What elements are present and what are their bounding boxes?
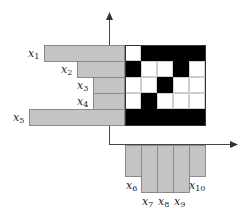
label-subscript: 1	[34, 52, 39, 61]
grid-cell	[189, 93, 205, 109]
grid-cell	[141, 93, 157, 109]
grid-cell	[157, 93, 173, 109]
projection-label: x8	[158, 196, 169, 209]
grid-cell	[173, 109, 189, 125]
row-projection-bar	[44, 45, 125, 62]
projection-label: x9	[174, 196, 185, 209]
label-subscript: 8	[164, 200, 169, 209]
label-subscript: 6	[132, 184, 137, 193]
projection-label: x2	[61, 64, 72, 77]
grid-cell	[141, 61, 157, 77]
label-subscript: 7	[148, 200, 153, 209]
label-subscript: 3	[83, 84, 88, 93]
label-subscript: 4	[83, 100, 88, 109]
column-projection-bar	[125, 145, 142, 177]
grid-cell	[157, 77, 173, 93]
grid-cell	[189, 61, 205, 77]
grid-cell	[173, 45, 189, 61]
grid-cell	[173, 61, 189, 77]
column-projection-bar	[157, 145, 174, 193]
column-projection-bar	[141, 145, 158, 193]
label-subscript: 10	[195, 184, 205, 193]
projection-diagram: x1x2x3x4x5 x6x7x8x9x10	[0, 0, 250, 218]
grid-cell	[125, 61, 141, 77]
grid-cell	[157, 109, 173, 125]
horizontal-axis-arrow-icon	[230, 141, 238, 148]
grid-cell	[173, 77, 189, 93]
row-projection-bar	[93, 93, 125, 110]
label-subscript: 5	[19, 116, 24, 125]
column-projection-bar	[173, 145, 190, 193]
projection-label: x4	[77, 96, 88, 109]
grid-cell	[125, 93, 141, 109]
grid-cell	[125, 45, 141, 61]
grid-cell	[189, 45, 205, 61]
label-subscript: 9	[180, 200, 185, 209]
grid-cell	[157, 45, 173, 61]
row-projection-bar	[29, 109, 125, 126]
projection-label: x3	[77, 80, 88, 93]
grid-cell	[141, 45, 157, 61]
projection-label: x7	[142, 196, 153, 209]
grid-cell	[189, 109, 205, 125]
grid-cell	[141, 109, 157, 125]
grid-cell	[157, 61, 173, 77]
projection-label: x5	[13, 112, 24, 125]
projection-label: x10	[189, 180, 205, 193]
grid-cell	[189, 77, 205, 93]
grid-cell	[173, 93, 189, 109]
grid-cell	[141, 77, 157, 93]
row-projection-bar	[77, 61, 125, 78]
projection-label: x1	[28, 48, 39, 61]
label-subscript: 2	[67, 68, 72, 77]
vertical-axis-arrow-icon	[106, 12, 113, 20]
grid-cell	[125, 77, 141, 93]
column-projection-bar	[189, 145, 206, 177]
projection-label: x6	[126, 180, 137, 193]
row-projection-bar	[93, 77, 125, 94]
grid-cell	[125, 109, 141, 125]
